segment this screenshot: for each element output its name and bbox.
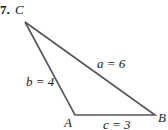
side-a-label: a = 6 <box>97 56 126 71</box>
triangle-abc <box>25 22 155 115</box>
side-b-label: b = 4 <box>26 74 55 89</box>
vertex-c-label: C <box>15 2 24 17</box>
side-c-label: c = 3 <box>103 117 131 130</box>
vertex-a-label: A <box>63 115 72 130</box>
triangle-diagram: 7. C A B a = 6 b = 4 c = 3 <box>0 0 168 130</box>
problem-number: 7. <box>0 2 10 17</box>
vertex-b-label: B <box>158 110 166 125</box>
